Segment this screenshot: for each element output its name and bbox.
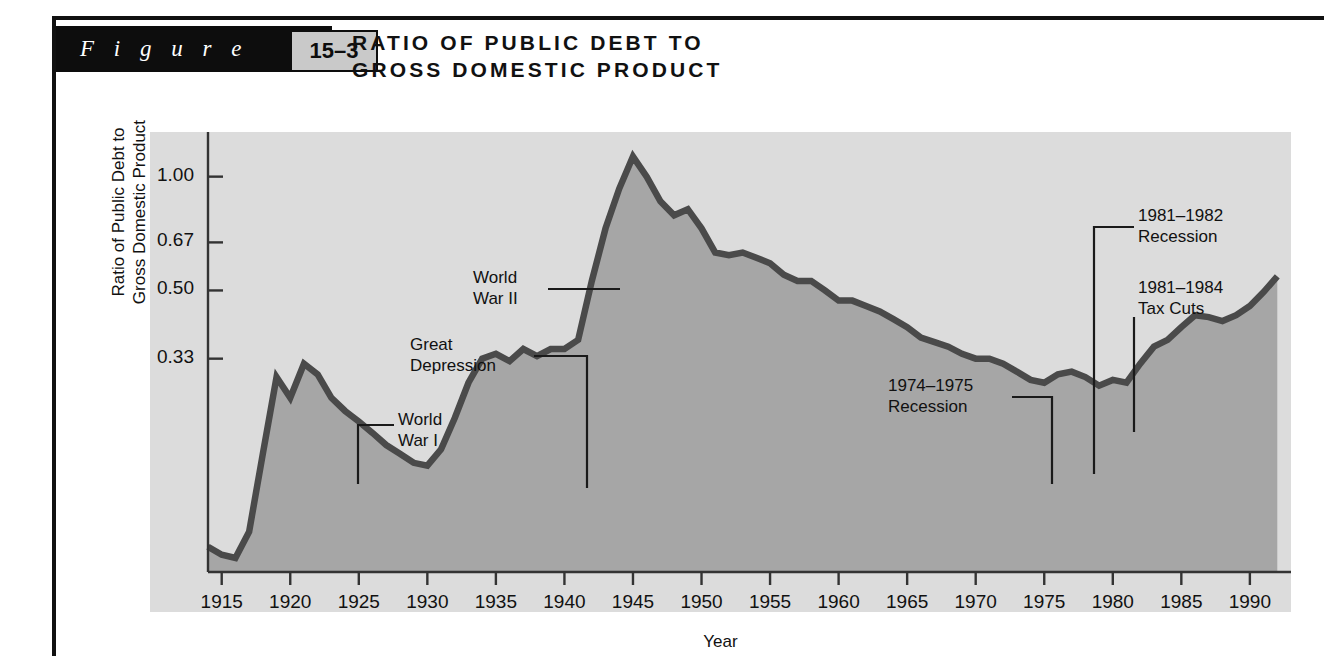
xtick-label: 1955 xyxy=(738,591,802,613)
figure-label: F i g u r e xyxy=(80,36,248,62)
xtick-label: 1950 xyxy=(670,591,734,613)
xtick-label: 1930 xyxy=(395,591,459,613)
chart-panel: 1.00 0.67 0.50 0.33 19151920192519301935… xyxy=(150,132,1291,612)
top-divider-rule xyxy=(52,16,1324,20)
chart-plot-area: 1.00 0.67 0.50 0.33 19151920192519301935… xyxy=(150,132,1291,612)
annotation-world-war-ii: World War II xyxy=(473,267,593,309)
ytick-label: 0.33 xyxy=(124,346,194,368)
xtick-label: 1920 xyxy=(258,591,322,613)
xtick-label: 1960 xyxy=(807,591,871,613)
annotation-world-war-i: World War I xyxy=(398,409,518,451)
figure-tag-block: F i g u r e 15–3 xyxy=(56,26,332,72)
xtick-label: 1915 xyxy=(190,591,254,613)
x-axis-title: Year xyxy=(150,632,1291,652)
xtick-label: 1970 xyxy=(944,591,1008,613)
chart-area-fill xyxy=(208,157,1277,572)
y-axis-title: Ratio of Public Debt to Gross Domestic P… xyxy=(108,92,150,332)
annotation-tax-cuts-1981-1984: 1981–1984 Tax Cuts xyxy=(1138,277,1288,319)
xtick-label: 1945 xyxy=(601,591,665,613)
xtick-label: 1985 xyxy=(1149,591,1213,613)
xtick-label: 1935 xyxy=(464,591,528,613)
figure-root: F i g u r e 15–3 RATIO OF PUBLIC DEBT TO… xyxy=(0,0,1329,668)
xtick-label: 1925 xyxy=(327,591,391,613)
xtick-label: 1965 xyxy=(875,591,939,613)
xtick-label: 1990 xyxy=(1218,591,1282,613)
annotation-recession-1974-1975: 1974–1975 Recession xyxy=(888,375,1038,417)
xtick-label: 1980 xyxy=(1081,591,1145,613)
annotation-recession-1981-1982: 1981–1982 Recession xyxy=(1138,205,1288,247)
figure-headline: RATIO OF PUBLIC DEBT TO GROSS DOMESTIC P… xyxy=(352,29,1052,83)
xtick-label: 1975 xyxy=(1012,591,1076,613)
annotation-great-depression: Great Depression xyxy=(410,334,580,376)
xtick-label: 1940 xyxy=(532,591,596,613)
chart-svg xyxy=(150,132,1291,612)
left-divider-rule xyxy=(52,16,56,656)
